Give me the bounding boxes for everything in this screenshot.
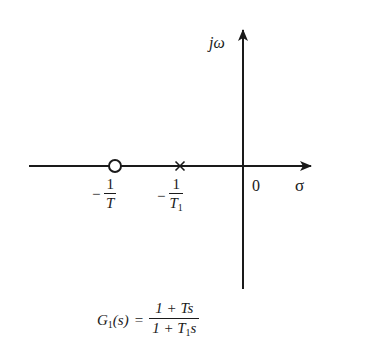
fraction: 1 T1 [169,177,182,216]
imaginary-axis-label-text: jω [209,34,225,51]
real-axis-label: σ [295,177,304,194]
equation-denominator: 1 + T1s [149,320,199,341]
function-argument: (s) [113,312,129,328]
fraction-numerator: 1 [104,177,116,193]
equals-sign: = [135,312,143,329]
equation-fraction-bar [149,318,199,319]
origin-label: 0 [252,178,260,194]
equation-lhs: G1(s) [97,312,129,330]
pole-location-label: − 1 T1 [157,177,183,216]
function-name: G [97,312,108,328]
imaginary-axis-label: jω [209,35,225,51]
denominator-prefix: 1 + T [152,320,185,336]
zero-location-label: − 1 T [92,177,116,211]
denominator-subscript: 1 [178,202,183,213]
fraction-denominator: T [106,194,114,211]
equation-numerator: 1 + Ts [152,300,196,317]
transfer-function-equation: G1(s) = 1 + Ts 1 + T1s [97,300,199,341]
denominator-suffix: s [191,320,197,336]
denominator-symbol: T [106,195,114,211]
equation-fraction: 1 + Ts 1 + T1s [149,300,199,341]
zero-marker-circle-icon [109,160,121,172]
minus-sign: − [157,188,165,205]
denominator-symbol: T [169,195,177,211]
fraction-denominator: T1 [169,194,182,216]
fraction: 1 T [104,177,116,211]
minus-sign: − [92,186,100,203]
numerator-text: 1 + Ts [155,300,193,316]
fraction-numerator: 1 [170,177,182,193]
